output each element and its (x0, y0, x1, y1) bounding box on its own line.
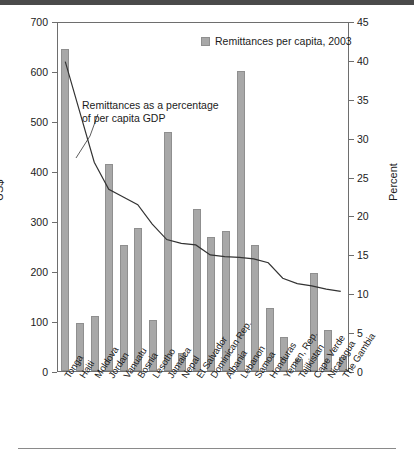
tick-label-left-100: 100 (30, 317, 48, 328)
plot-area (57, 22, 349, 372)
bottom-rule (18, 448, 396, 449)
y-axis-label-left: US$ (0, 180, 5, 201)
line-series (58, 23, 348, 371)
chart-figure: US$ Percent 0100200300400500600700 05101… (0, 5, 414, 405)
tick-label-left-700: 700 (30, 17, 48, 28)
percentage-line (65, 62, 341, 292)
tick-label-left-0: 0 (42, 367, 48, 378)
tick-label-left-200: 200 (30, 267, 48, 278)
tick-label-right-45: 45 (357, 17, 369, 28)
tick-label-right-0: 0 (357, 367, 363, 378)
tick-right-10 (349, 294, 354, 295)
tick-label-right-30: 30 (357, 134, 369, 145)
tick-right-5 (349, 333, 354, 334)
tick-label-left-500: 500 (30, 117, 48, 128)
x-axis-category-labels: TongaHaitiMoldovaJordanVanuatuBosniaLeso… (57, 374, 349, 458)
tick-label-left-400: 400 (30, 167, 48, 178)
tick-right-45 (349, 22, 354, 23)
chart-annotation: Remittances as a percentage of per capit… (82, 99, 219, 125)
tick-right-35 (349, 100, 354, 101)
tick-right-20 (349, 216, 354, 217)
tick-right-40 (349, 61, 354, 62)
tick-right-15 (349, 255, 354, 256)
legend-label-remittances-per-capita: Remittances per capita, 2003 (215, 35, 352, 47)
tick-left-0 (52, 372, 57, 373)
tick-label-right-20: 20 (357, 211, 369, 222)
tick-label-left-300: 300 (30, 217, 48, 228)
tick-label-right-15: 15 (357, 250, 369, 261)
tick-label-left-600: 600 (30, 67, 48, 78)
tick-label-right-35: 35 (357, 95, 369, 106)
y-axis-label-right: Percent (387, 163, 399, 201)
legend-swatch-remittances-per-capita (201, 37, 210, 46)
tick-label-right-10: 10 (357, 289, 369, 300)
tick-label-right-25: 25 (357, 173, 369, 184)
annotation-line-2: of per capita GDP (82, 112, 219, 125)
chart-legend: Remittances per capita, 2003 (201, 35, 352, 47)
tick-label-right-5: 5 (357, 328, 363, 339)
tick-right-30 (349, 139, 354, 140)
annotation-line-1: Remittances as a percentage (82, 99, 219, 112)
tick-right-25 (349, 178, 354, 179)
tick-label-right-40: 40 (357, 56, 369, 67)
